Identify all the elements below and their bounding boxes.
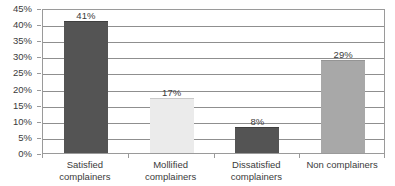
y-axis-tick-mark [37,122,41,123]
y-axis-tick-label: 0% [18,149,32,159]
y-axis: 45%40%35%30%25%20%15%10%5%0% [0,0,40,186]
y-axis-tick-label: 35% [13,36,32,46]
x-axis-tick-mark [128,154,129,158]
bar-value-label: 41% [54,10,118,21]
y-axis-tick-mark [37,90,41,91]
x-axis-category-label: Mollifiedcomplainers [128,159,214,183]
y-axis-tick-label: 10% [13,117,32,127]
bar-value-label: 8% [225,116,289,127]
bar-value-label: 29% [311,49,375,60]
x-axis-tick-mark [214,154,215,158]
y-axis-tick-mark [37,9,41,10]
y-axis-tick-label: 15% [13,101,32,111]
x-axis-category-label: Dissatisfiedcomplainers [214,159,300,183]
x-axis-labels: SatisfiedcomplainersMollifiedcomplainers… [42,159,385,186]
x-axis-category-label-line: Dissatisfied [214,159,300,171]
bar [235,127,279,153]
y-axis-tick-label: 40% [13,20,32,30]
bar-value-label: 17% [140,87,204,98]
y-axis-tick-mark [37,154,41,155]
y-axis-tick-label: 45% [13,4,32,14]
y-axis-tick-label: 30% [13,52,32,62]
x-axis-tick-mark [384,154,385,158]
y-axis-tick-mark [37,138,41,139]
x-axis-category-label-line: Satisfied [42,159,128,171]
x-axis-tick-mark [42,154,43,158]
x-axis-category-label: Satisfiedcomplainers [42,159,128,183]
x-axis-category-label-line: Non complainers [299,159,385,171]
bar [64,21,108,153]
x-axis-category-label: Non complainers [299,159,385,171]
y-axis-tick-mark [37,25,41,26]
y-axis-tick-label: 25% [13,68,32,78]
plot-area: 41%17%8%29% [42,9,385,154]
x-axis-category-label-line: Mollified [128,159,214,171]
x-axis-category-label-line: complainers [42,171,128,183]
bar [321,60,365,153]
x-axis-tick-mark [299,154,300,158]
y-axis-tick-mark [37,106,41,107]
y-axis-tick-label: 5% [18,133,32,143]
y-axis-tick-mark [37,41,41,42]
y-axis-tick-label: 20% [13,85,32,95]
bar [150,98,194,153]
x-axis-category-label-line: complainers [128,171,214,183]
x-axis-category-label-line: complainers [214,171,300,183]
bar-chart: 45%40%35%30%25%20%15%10%5%0% 41%17%8%29%… [0,0,395,186]
y-axis-tick-mark [37,57,41,58]
y-axis-tick-mark [37,73,41,74]
